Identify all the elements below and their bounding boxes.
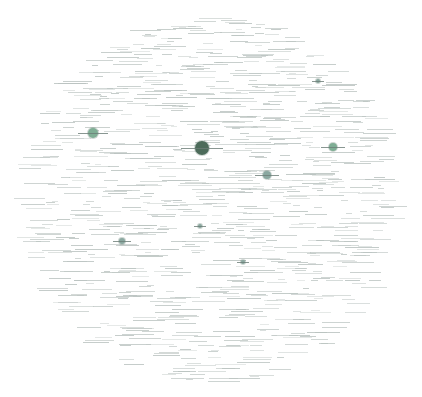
node-label <box>242 54 274 55</box>
node-label <box>244 61 260 62</box>
node-label <box>190 94 215 95</box>
node-label <box>244 272 258 273</box>
node-label <box>217 228 234 229</box>
node-label <box>322 327 347 328</box>
node-label <box>210 53 222 54</box>
node-label <box>263 104 280 105</box>
node-label <box>242 339 273 340</box>
node-label <box>120 345 131 346</box>
node-label <box>236 29 243 30</box>
node-label <box>154 156 173 157</box>
node-label <box>226 224 243 225</box>
network-graph <box>0 0 422 397</box>
node-label <box>283 196 307 197</box>
node-label <box>77 327 101 328</box>
node-label <box>236 266 265 267</box>
node-label <box>186 379 192 380</box>
node-label <box>145 91 171 92</box>
node-label <box>55 138 84 139</box>
node-label <box>121 114 132 115</box>
node-label <box>302 145 311 146</box>
node-label <box>119 359 134 360</box>
node-label <box>250 350 264 351</box>
node-label <box>258 51 290 52</box>
node-label <box>367 156 395 157</box>
node-label <box>176 95 183 96</box>
node-label <box>291 121 304 122</box>
node-label <box>260 330 266 331</box>
node-label <box>317 190 323 191</box>
node-label <box>280 155 290 156</box>
node-label <box>278 189 296 190</box>
node-label <box>359 223 387 224</box>
node-label <box>63 90 74 91</box>
node-label <box>231 35 244 36</box>
node-label <box>28 252 44 253</box>
node-label <box>211 131 218 132</box>
node-label <box>344 132 364 133</box>
node-label <box>143 82 162 83</box>
node-label <box>87 117 94 118</box>
node-label <box>252 229 270 230</box>
node-label <box>189 57 198 58</box>
node-label <box>253 235 273 236</box>
node-label <box>313 278 330 279</box>
node-label <box>93 72 121 73</box>
node-label <box>338 100 353 101</box>
node-label <box>244 248 261 249</box>
node-label <box>36 241 50 242</box>
node-label <box>155 105 184 106</box>
node-label <box>130 210 147 211</box>
node-label <box>322 152 355 153</box>
node-label <box>192 189 221 190</box>
node-label <box>260 324 269 325</box>
node-label <box>145 80 169 81</box>
node-label <box>162 54 173 55</box>
node-label <box>220 32 245 33</box>
node-label <box>270 259 286 260</box>
node-label <box>192 129 202 130</box>
node-label <box>275 91 296 92</box>
node-label <box>157 319 189 320</box>
node-label <box>166 291 174 292</box>
node-label <box>268 179 282 180</box>
node-label <box>221 20 247 21</box>
node-label <box>17 237 44 238</box>
node-label <box>306 157 332 158</box>
node-label <box>234 183 261 184</box>
node-label <box>168 38 183 39</box>
node-label <box>176 332 202 333</box>
node-label <box>173 368 196 369</box>
node-label <box>124 364 144 365</box>
node-label <box>101 272 129 273</box>
node-label <box>300 131 330 132</box>
node-label <box>108 193 127 194</box>
node-label <box>178 350 197 351</box>
node-label <box>277 357 284 358</box>
node-label <box>118 298 128 299</box>
node-label <box>363 215 395 216</box>
node-label <box>187 124 220 125</box>
node-label <box>91 207 101 208</box>
node-label <box>108 166 119 167</box>
node-label <box>278 279 284 280</box>
node-label <box>56 237 75 238</box>
node-label <box>86 283 93 284</box>
node-label <box>141 48 160 49</box>
node-label <box>160 266 176 267</box>
node-label <box>204 140 220 141</box>
node-label <box>182 164 208 165</box>
node-label <box>305 214 327 215</box>
node-label <box>233 116 256 117</box>
node-label <box>181 66 203 67</box>
node-label <box>80 115 101 116</box>
node-label <box>155 305 181 306</box>
node-label <box>299 223 316 224</box>
node-label <box>88 254 95 255</box>
node-label <box>342 299 356 300</box>
node-label <box>178 209 192 210</box>
hub-left-label <box>78 133 108 134</box>
node-label <box>188 33 214 34</box>
node-label <box>196 192 229 193</box>
node-label <box>77 295 84 296</box>
